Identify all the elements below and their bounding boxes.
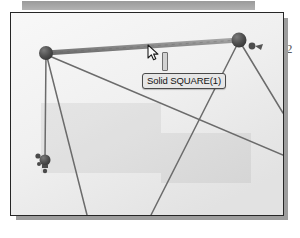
node-top-left [39, 46, 53, 60]
member-left-vert [45, 53, 46, 159]
node-top-right [232, 33, 247, 48]
text-caret-icon [162, 52, 168, 71]
entity-tooltip: Solid SQUARE(1) [142, 73, 226, 89]
screenshot-root: 2 [0, 0, 300, 238]
cursor-svg [147, 44, 160, 61]
cad-viewport[interactable] [10, 12, 284, 216]
toolbar-strip[interactable] [22, 1, 255, 10]
arrow-pointer-icon [147, 44, 160, 61]
